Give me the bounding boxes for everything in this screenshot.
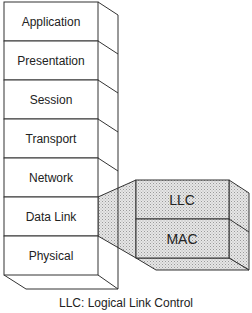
layer-label-physical: Physical [29,249,74,263]
connector-shape [98,180,136,258]
sublayer-label-llc: LLC [169,192,195,208]
layer-label-data-link: Data Link [26,210,78,224]
sublayer-label-mac: MAC [166,231,197,247]
layer-label-network: Network [29,171,74,185]
osi-diagram: Application Presentation Session Transpo… [0,0,252,313]
layer-label-presentation: Presentation [17,54,84,68]
caption: LLC: Logical Link Control [0,296,252,310]
layer-label-transport: Transport [26,132,78,146]
layer-label-application: Application [22,15,81,29]
layer-label-session: Session [30,93,73,107]
